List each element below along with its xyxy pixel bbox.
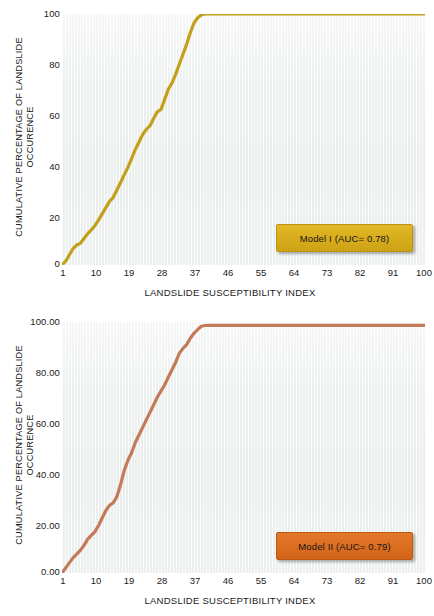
y-tick-label: 20.00	[36, 521, 60, 531]
x-tick-label: 64	[289, 268, 300, 278]
y-tick-label: 0	[55, 259, 60, 269]
x-tick-label: 37	[190, 576, 201, 586]
x-tick-label: 100	[416, 576, 432, 586]
x-tick-label: 19	[124, 268, 135, 278]
y-tick-label: 80	[49, 60, 60, 70]
x-tick-label: 46	[223, 576, 234, 586]
x-axis-title-1: LANDSLIDE SUSCEPTIBILITY INDEX	[30, 287, 430, 298]
x-tick-label: 37	[190, 268, 201, 278]
x-tick-label: 73	[322, 576, 333, 586]
x-tick-label: 100	[416, 268, 432, 278]
x-tick-label: 1	[60, 576, 65, 586]
x-tick-label: 55	[256, 576, 267, 586]
x-tick-label: 91	[388, 268, 399, 278]
legend-model-1[interactable]: Model I (AUC= 0.78)	[276, 224, 413, 252]
y-axis-title-1: CUMULATIVE PERCENTAGE OF LANDSLIDE OCCUR…	[14, 12, 36, 262]
x-axis-title-2: LANDSLIDE SUSCEPTIBILITY INDEX	[30, 595, 430, 606]
legend-model-2[interactable]: Model II (AUC= 0.79)	[276, 532, 413, 560]
x-tick-label: 73	[322, 268, 333, 278]
y-tick-label: 100	[44, 9, 60, 19]
y-tick-label: 100.00	[30, 317, 60, 327]
x-tick-label: 82	[355, 576, 366, 586]
y-axis-title-1-line2: OCCURENCE	[25, 107, 35, 168]
x-tick-label: 28	[157, 576, 168, 586]
y-axis-title-2: CUMULATIVE PERCENTAGE OF LANDSLIDE OCCUR…	[14, 320, 36, 570]
x-tick-label: 1	[60, 268, 65, 278]
y-axis-title-2-line1: CUMULATIVE PERCENTAGE OF LANDSLIDE	[14, 345, 24, 544]
x-tick-label: 28	[157, 268, 168, 278]
chart-panel-1: CUMULATIVE PERCENTAGE OF LANDSLIDE OCCUR…	[0, 0, 434, 308]
y-tick-label: 60	[49, 111, 60, 121]
y-axis-title-1-line1: CUMULATIVE PERCENTAGE OF LANDSLIDE	[14, 37, 24, 236]
y-tick-label: 40	[49, 162, 60, 172]
x-tick-label: 46	[223, 268, 234, 278]
x-tick-label: 82	[355, 268, 366, 278]
chart-panel-2: CUMULATIVE PERCENTAGE OF LANDSLIDE OCCUR…	[0, 308, 434, 616]
x-tick-label: 19	[124, 576, 135, 586]
y-axis-title-2-line2: OCCURENCE	[25, 415, 35, 476]
y-tick-label: 20	[49, 213, 60, 223]
x-tick-label: 10	[91, 268, 102, 278]
x-tick-label: 55	[256, 268, 267, 278]
y-tick-label: 60.00	[36, 419, 60, 429]
x-tick-label: 10	[91, 576, 102, 586]
y-tick-label: 0.00	[41, 567, 60, 577]
x-tick-label: 91	[388, 576, 399, 586]
y-tick-label: 80.00	[36, 368, 60, 378]
landslide-roc-figure: CUMULATIVE PERCENTAGE OF LANDSLIDE OCCUR…	[0, 0, 434, 616]
y-tick-label: 40.00	[36, 470, 60, 480]
x-tick-label: 64	[289, 576, 300, 586]
